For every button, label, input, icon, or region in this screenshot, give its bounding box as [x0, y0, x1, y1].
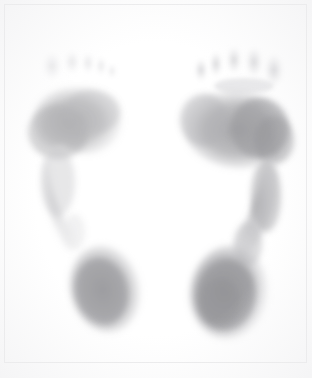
left-foot-heel-group — [60, 238, 149, 340]
footprint-stage — [0, 0, 312, 378]
left-foot-forefoot-group — [28, 87, 122, 159]
left-foot-midfoot-group — [41, 148, 85, 252]
left-footprint — [0, 0, 156, 378]
footprint-scan-page — [0, 0, 312, 378]
right-foot-forefoot-group — [180, 92, 294, 169]
right-footprint — [156, 0, 312, 378]
right-foot-heel-group — [183, 239, 275, 344]
right-foot-toes-group — [195, 47, 283, 94]
left-foot-toes-group — [43, 51, 116, 79]
